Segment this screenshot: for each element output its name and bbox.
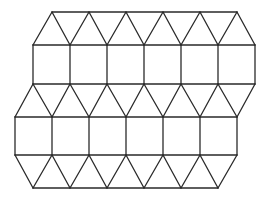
edge-diagonal xyxy=(163,155,181,188)
edge-diagonal xyxy=(126,155,144,188)
edge-diagonal xyxy=(70,12,89,45)
edge-diagonal xyxy=(218,84,237,117)
edge-diagonal xyxy=(144,155,163,188)
edge-diagonal xyxy=(144,12,163,45)
edge-diagonal xyxy=(163,12,181,45)
edge-diagonal xyxy=(163,84,181,117)
edge-diagonal xyxy=(237,84,255,117)
edge-diagonal xyxy=(52,12,70,45)
edge-diagonal xyxy=(126,12,144,45)
edge-diagonal xyxy=(237,12,255,45)
edge-diagonal xyxy=(200,155,218,188)
edge-diagonal xyxy=(181,84,200,117)
edge-diagonal xyxy=(107,155,126,188)
edge-diagonal xyxy=(15,155,33,188)
tiling-canvas xyxy=(0,0,272,202)
edge-diagonal xyxy=(144,84,163,117)
edge-diagonal xyxy=(218,12,237,45)
edge-diagonal xyxy=(89,84,107,117)
edge-diagonal xyxy=(181,12,200,45)
edge-diagonal xyxy=(33,155,52,188)
edge-diagonal xyxy=(52,84,70,117)
edge-diagonal xyxy=(126,84,144,117)
edge-diagonal xyxy=(181,155,200,188)
edge-diagonal xyxy=(33,84,52,117)
edge-diagonal xyxy=(89,12,107,45)
edge-diagonal xyxy=(33,12,52,45)
edge-diagonal xyxy=(52,155,70,188)
edge-diagonal xyxy=(89,155,107,188)
edge-diagonal xyxy=(218,155,237,188)
edge-diagonal xyxy=(70,84,89,117)
edge-diagonal xyxy=(200,84,218,117)
edge-diagonal xyxy=(200,12,218,45)
edge-diagonal xyxy=(107,84,126,117)
edge-diagonal xyxy=(15,84,33,117)
edge-diagonal xyxy=(70,155,89,188)
edge-diagonal xyxy=(107,12,126,45)
